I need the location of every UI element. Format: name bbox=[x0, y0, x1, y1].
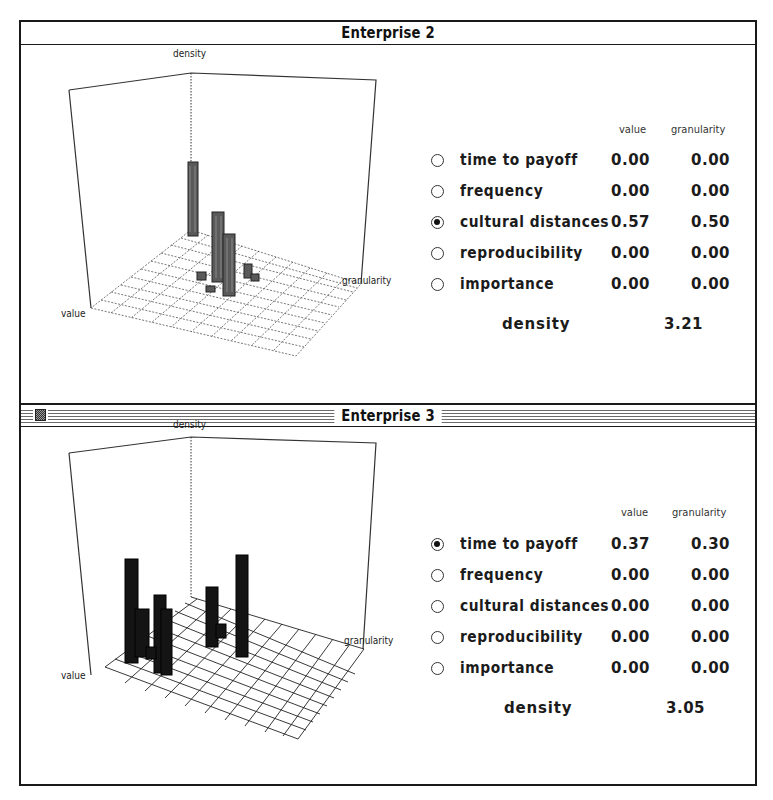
parameter-value: 0.37 bbox=[611, 535, 650, 553]
close-box-icon[interactable] bbox=[33, 409, 48, 421]
column-header-value: value bbox=[621, 506, 648, 519]
parameter-row-reproducibility[interactable]: reproducibility 0.00 0.00 bbox=[426, 625, 756, 649]
axis-label-granularity: granularity bbox=[344, 635, 393, 646]
parameter-label: frequency bbox=[460, 182, 543, 200]
parameter-label: reproducibility bbox=[460, 628, 583, 646]
parameter-granularity: 0.00 bbox=[691, 182, 730, 200]
parameter-granularity: 0.50 bbox=[691, 213, 730, 231]
density-label: density bbox=[502, 315, 570, 333]
axis-label-granularity: granularity bbox=[342, 275, 391, 286]
radio-button[interactable] bbox=[431, 154, 444, 167]
parameter-granularity: 0.00 bbox=[691, 659, 730, 677]
axis-label-density: density bbox=[173, 48, 206, 59]
parameter-label: time to payoff bbox=[460, 151, 578, 169]
window-title-bar[interactable]: Enterprise 3 bbox=[21, 405, 755, 427]
parameter-value: 0.00 bbox=[611, 659, 650, 677]
chart-canvas bbox=[21, 427, 421, 787]
radio-button[interactable] bbox=[431, 662, 444, 675]
parameter-row-cultural-distances[interactable]: cultural distances 0.00 0.00 bbox=[426, 594, 756, 618]
parameter-value: 0.00 bbox=[611, 566, 650, 584]
parameter-value: 0.00 bbox=[611, 244, 650, 262]
radio-button[interactable] bbox=[431, 631, 444, 644]
parameter-value: 0.00 bbox=[611, 151, 650, 169]
window-title: Enterprise 2 bbox=[334, 24, 441, 42]
parameter-value: 0.00 bbox=[611, 597, 650, 615]
radio-button[interactable] bbox=[431, 600, 444, 613]
parameter-panel: value granularity time to payoff 0.00 0.… bbox=[426, 44, 756, 404]
parameter-value: 0.00 bbox=[611, 182, 650, 200]
parameter-row-cultural-distances[interactable]: cultural distances 0.57 0.50 bbox=[426, 210, 756, 234]
axis-label-value: value bbox=[61, 670, 86, 681]
column-header-value: value bbox=[619, 123, 646, 136]
parameter-row-frequency[interactable]: frequency 0.00 0.00 bbox=[426, 179, 756, 203]
column-header-granularity: granularity bbox=[671, 123, 725, 136]
radio-button[interactable] bbox=[431, 569, 444, 582]
parameter-granularity: 0.00 bbox=[691, 566, 730, 584]
window-enterprise-3[interactable]: Enterprise 3 bbox=[19, 403, 757, 786]
parameter-granularity: 0.00 bbox=[691, 275, 730, 293]
window-title: Enterprise 3 bbox=[334, 407, 441, 425]
parameter-label: frequency bbox=[460, 566, 543, 584]
parameter-row-importance[interactable]: importance 0.00 0.00 bbox=[426, 656, 756, 680]
parameter-granularity: 0.00 bbox=[691, 244, 730, 262]
chart-canvas bbox=[21, 44, 421, 404]
parameter-granularity: 0.00 bbox=[691, 628, 730, 646]
parameter-value: 0.00 bbox=[611, 628, 650, 646]
parameter-label: importance bbox=[460, 275, 554, 293]
parameter-row-time-to-payoff[interactable]: time to payoff 0.00 0.00 bbox=[426, 148, 756, 172]
3d-density-chart[interactable]: density value granularity bbox=[21, 44, 421, 404]
parameter-label: cultural distances bbox=[460, 597, 609, 615]
parameter-granularity: 0.30 bbox=[691, 535, 730, 553]
3d-density-chart[interactable]: density value granularity bbox=[21, 427, 421, 787]
parameter-label: importance bbox=[460, 659, 554, 677]
axis-label-value: value bbox=[61, 308, 86, 319]
parameter-label: time to payoff bbox=[460, 535, 578, 553]
axis-label-density: density bbox=[173, 419, 206, 430]
radio-button-selected[interactable] bbox=[431, 538, 444, 551]
density-value: 3.21 bbox=[664, 315, 703, 333]
radio-button[interactable] bbox=[431, 185, 444, 198]
column-header-granularity: granularity bbox=[672, 506, 726, 519]
parameter-row-reproducibility[interactable]: reproducibility 0.00 0.00 bbox=[426, 241, 756, 265]
parameter-value: 0.00 bbox=[611, 275, 650, 293]
window-title-bar[interactable]: Enterprise 2 bbox=[21, 22, 755, 45]
radio-button[interactable] bbox=[431, 247, 444, 260]
density-value: 3.05 bbox=[666, 699, 705, 717]
parameter-panel: value granularity time to payoff 0.37 0.… bbox=[426, 427, 756, 787]
parameter-granularity: 0.00 bbox=[691, 151, 730, 169]
parameter-granularity: 0.00 bbox=[691, 597, 730, 615]
parameter-label: cultural distances bbox=[460, 213, 609, 231]
parameter-row-importance[interactable]: importance 0.00 0.00 bbox=[426, 272, 756, 296]
window-enterprise-2[interactable]: Enterprise 2 bbox=[19, 20, 757, 407]
parameter-label: reproducibility bbox=[460, 244, 583, 262]
radio-button-selected[interactable] bbox=[431, 216, 444, 229]
radio-button[interactable] bbox=[431, 278, 444, 291]
parameter-row-frequency[interactable]: frequency 0.00 0.00 bbox=[426, 563, 756, 587]
density-label: density bbox=[504, 699, 572, 717]
parameter-row-time-to-payoff[interactable]: time to payoff 0.37 0.30 bbox=[426, 532, 756, 556]
parameter-value: 0.57 bbox=[611, 213, 650, 231]
